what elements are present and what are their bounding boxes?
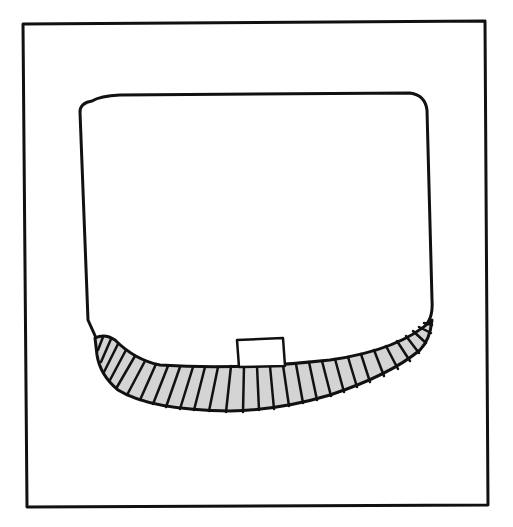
diagram-canvas bbox=[0, 0, 513, 527]
small-box bbox=[237, 338, 285, 367]
